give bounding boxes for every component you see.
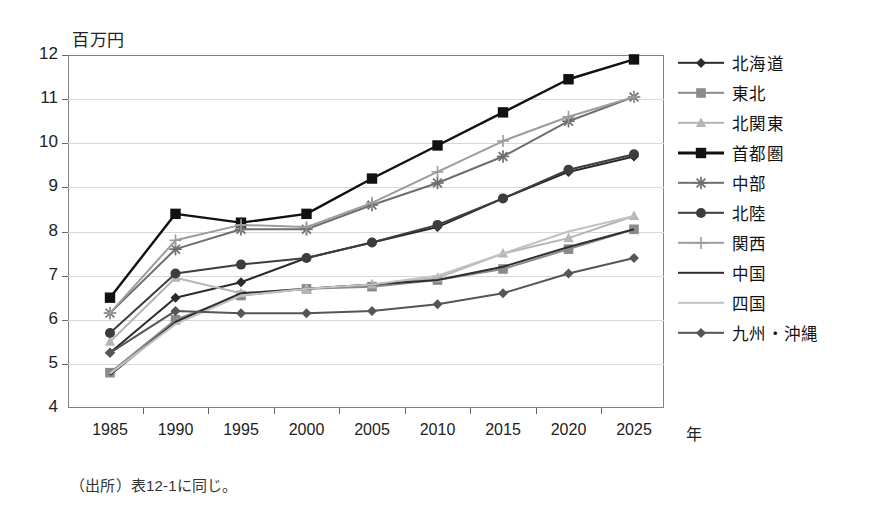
data-point-marker <box>695 237 707 249</box>
data-point-marker <box>629 149 639 159</box>
legend-marker-glyph <box>691 173 711 193</box>
legend: 北海道東北北関東首都圏中部北陸関西中国四国九州・沖縄 <box>678 48 868 348</box>
legend-label: 北海道 <box>732 51 784 75</box>
legend-item-5[interactable]: 北陸 <box>678 198 868 228</box>
legend-item-8[interactable]: 四国 <box>678 288 868 318</box>
legend-marker-glyph <box>691 143 711 163</box>
source-caption: （出所）表12-1に同じ。 <box>70 474 238 495</box>
x-tick-mark <box>405 408 406 414</box>
legend-label: 関西 <box>732 231 767 255</box>
legend-label: 首都圏 <box>732 141 784 165</box>
legend-marker-icon <box>678 114 724 132</box>
legend-label: 九州・沖縄 <box>732 321 819 345</box>
data-point-marker <box>498 107 508 117</box>
legend-label: 四国 <box>732 291 767 315</box>
y-tick-label: 6 <box>0 309 58 329</box>
y-tick-label: 8 <box>0 221 58 241</box>
x-axis-title: 年 <box>686 421 702 445</box>
data-point-marker <box>301 221 313 233</box>
x-tick-mark <box>536 408 537 414</box>
x-tick-label: 1995 <box>206 421 276 439</box>
legend-item-3[interactable]: 首都圏 <box>678 138 868 168</box>
x-tick-label: 2010 <box>403 421 473 439</box>
legend-marker-glyph <box>691 233 711 253</box>
x-tick-label: 2025 <box>599 421 669 439</box>
y-tick-label: 4 <box>0 397 58 417</box>
legend-marker-icon <box>678 144 724 162</box>
legend-label: 東北 <box>732 81 767 105</box>
legend-item-7[interactable]: 中国 <box>678 258 868 288</box>
data-point-marker <box>629 253 639 263</box>
x-tick-label: 2005 <box>337 421 407 439</box>
data-point-marker <box>498 193 508 203</box>
y-tick-label: 10 <box>0 132 58 152</box>
legend-marker-icon <box>678 204 724 222</box>
legend-line <box>678 302 724 304</box>
data-point-marker <box>433 299 443 309</box>
chart-page: 百万円 456789101112 19851990199520002005201… <box>0 0 875 525</box>
data-point-marker <box>105 328 115 338</box>
data-point-marker <box>433 220 443 230</box>
legend-item-2[interactable]: 北関東 <box>678 108 868 138</box>
series-lines <box>68 55 664 408</box>
legend-line <box>678 272 724 274</box>
x-tick-mark <box>274 408 275 414</box>
series-9 <box>105 253 639 358</box>
legend-label: 中国 <box>732 261 767 285</box>
data-point-marker <box>695 177 707 189</box>
data-point-marker <box>301 209 311 219</box>
legend-marker-glyph <box>691 323 711 343</box>
legend-marker-icon <box>678 174 724 192</box>
data-point-marker <box>367 306 377 316</box>
data-point-marker <box>563 74 573 84</box>
data-point-marker <box>236 308 246 318</box>
data-point-marker <box>696 328 706 338</box>
x-tick-label: 1990 <box>141 421 211 439</box>
legend-marker-glyph <box>691 113 711 133</box>
legend-marker-icon <box>678 54 724 72</box>
y-axis-unit-label: 百万円 <box>72 26 125 51</box>
data-point-marker <box>696 117 706 127</box>
x-tick-label: 2015 <box>468 421 538 439</box>
data-point-marker <box>696 88 706 98</box>
series-3 <box>105 54 639 303</box>
y-tick-label: 9 <box>0 176 58 196</box>
data-point-marker <box>236 277 246 287</box>
legend-item-0[interactable]: 北海道 <box>678 48 868 78</box>
data-point-marker <box>171 268 181 278</box>
data-point-marker <box>171 306 181 316</box>
legend-label: 中部 <box>732 171 767 195</box>
data-point-marker <box>236 260 246 270</box>
data-point-marker <box>497 135 509 147</box>
series-2 <box>105 210 639 345</box>
data-point-marker <box>498 288 508 298</box>
data-point-marker <box>170 209 180 219</box>
legend-marker-icon <box>678 294 724 312</box>
legend-label: 北陸 <box>732 201 767 225</box>
x-tick-mark <box>601 408 602 414</box>
data-point-marker <box>367 238 377 248</box>
data-point-marker <box>431 177 443 189</box>
data-point-marker <box>629 210 639 220</box>
x-tick-label: 1985 <box>75 421 145 439</box>
legend-marker-icon <box>678 324 724 342</box>
data-point-marker <box>105 292 115 302</box>
series-line <box>110 156 634 352</box>
legend-item-1[interactable]: 東北 <box>678 78 868 108</box>
legend-marker-glyph <box>691 53 711 73</box>
data-point-marker <box>302 308 312 318</box>
data-point-marker <box>367 173 377 183</box>
x-tick-label: 2020 <box>534 421 604 439</box>
legend-marker-icon <box>678 264 724 282</box>
plot-area <box>68 55 664 408</box>
legend-item-6[interactable]: 関西 <box>678 228 868 258</box>
data-point-marker <box>696 208 706 218</box>
data-point-marker <box>432 140 442 150</box>
data-point-marker <box>696 148 706 158</box>
data-point-marker <box>432 166 444 178</box>
y-tick-label: 5 <box>0 353 58 373</box>
legend-item-9[interactable]: 九州・沖縄 <box>678 318 868 348</box>
legend-item-4[interactable]: 中部 <box>678 168 868 198</box>
y-tick-label: 7 <box>0 265 58 285</box>
series-line <box>110 229 634 375</box>
